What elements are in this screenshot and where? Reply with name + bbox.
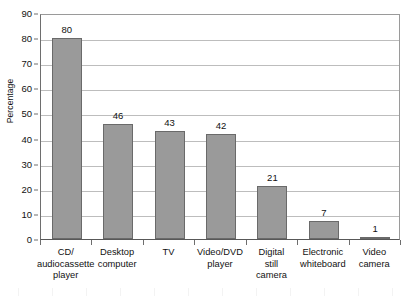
bar[interactable]	[155, 131, 185, 239]
y-tick-label: 30	[2, 160, 32, 170]
y-tick-mark	[34, 89, 38, 90]
y-tick-mark	[34, 164, 38, 165]
y-axis: 0102030405060708090	[0, 0, 40, 296]
x-tick-mark	[297, 240, 298, 245]
bar-value-label: 80	[61, 25, 72, 35]
x-tick-mark	[91, 240, 92, 245]
bar-slot: 1	[350, 15, 401, 239]
bar[interactable]	[52, 38, 82, 239]
y-tick-label: 80	[2, 34, 32, 44]
x-category-label-line: computer	[87, 259, 146, 271]
bar-value-label: 7	[321, 208, 326, 218]
x-tick-mark	[194, 240, 195, 245]
y-tick-mark	[34, 189, 38, 190]
bar-slot: 42	[195, 15, 246, 239]
y-tick-label: 60	[2, 85, 32, 95]
bar-value-label: 1	[373, 224, 378, 234]
y-tick-label: 40	[2, 135, 32, 145]
y-tick-label: 90	[2, 9, 32, 19]
x-category-label-line: camera	[345, 259, 404, 271]
bar[interactable]	[360, 237, 390, 240]
bar[interactable]	[309, 221, 339, 239]
plot-area: 804643422171	[40, 14, 400, 240]
bar-value-label: 46	[113, 111, 124, 121]
bar-slot: 21	[247, 15, 298, 239]
bars-group: 804643422171	[41, 15, 399, 239]
x-tick-mark	[40, 240, 41, 245]
y-tick-mark	[34, 39, 38, 40]
bar[interactable]	[257, 186, 287, 239]
x-category-label-line: player	[36, 270, 95, 282]
y-tick-label: 10	[2, 210, 32, 220]
x-category-label-line: Video	[345, 247, 404, 259]
bar-chart-figure: Percentage 0102030405060708090 804643422…	[0, 0, 418, 296]
bar[interactable]	[103, 124, 133, 240]
y-tick-label: 20	[2, 185, 32, 195]
bar-slot: 46	[92, 15, 143, 239]
bar-slot: 7	[298, 15, 349, 239]
y-tick-mark	[34, 240, 38, 241]
y-tick-label: 0	[2, 235, 32, 245]
y-tick-mark	[34, 64, 38, 65]
y-tick-mark	[34, 214, 38, 215]
y-tick-mark	[34, 14, 38, 15]
bar-slot: 80	[41, 15, 92, 239]
x-category-label: Videocamera	[345, 247, 404, 270]
scan-artifact	[0, 288, 418, 296]
x-category-label-line: camera	[242, 270, 301, 282]
bar[interactable]	[206, 134, 236, 239]
bar-value-label: 43	[164, 118, 175, 128]
y-tick-mark	[34, 139, 38, 140]
x-tick-mark	[349, 240, 350, 245]
y-tick-mark	[34, 114, 38, 115]
bar-value-label: 21	[267, 173, 278, 183]
bar-slot: 43	[144, 15, 195, 239]
x-tick-mark	[400, 240, 401, 245]
y-tick-label: 50	[2, 110, 32, 120]
x-tick-mark	[143, 240, 144, 245]
bar-value-label: 42	[216, 121, 227, 131]
x-tick-mark	[246, 240, 247, 245]
y-tick-label: 70	[2, 59, 32, 69]
